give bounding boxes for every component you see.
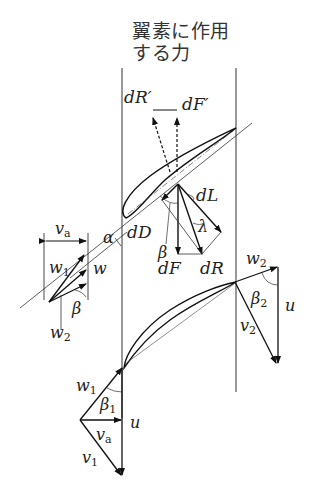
label-dR: dR <box>200 258 224 278</box>
label-beta-left: β <box>71 299 81 318</box>
blade-force-diagram: dR′ dF′ dL dD α β λ dF dR va w1 w β w2 w… <box>0 0 312 502</box>
label-beta2: β2 <box>250 289 267 310</box>
label-w2-left: w2 <box>50 323 71 344</box>
label-v1: v1 <box>82 448 98 469</box>
label-va-top: va <box>55 219 71 240</box>
label-w-left: w <box>93 259 107 278</box>
dD-arrow <box>162 184 178 200</box>
left-velocity-triangle <box>44 233 88 330</box>
label-w2-right: w2 <box>246 249 267 270</box>
label-dF-prime: dF′ <box>182 94 209 114</box>
label-u-right: u <box>285 296 295 315</box>
label-dD: dD <box>127 222 152 242</box>
label-dR-prime: dR′ <box>124 87 152 107</box>
label-u-bottom: u <box>130 413 140 432</box>
chord-line-extended <box>20 123 252 308</box>
label-dL: dL <box>196 185 218 205</box>
label-w1-bottom: w1 <box>76 376 97 397</box>
label-alpha: α <box>103 228 114 247</box>
label-w1-left: w1 <box>49 258 70 279</box>
label-va-bottom: va <box>96 425 112 446</box>
outlet-velocity-triangle <box>235 267 278 363</box>
top-airfoil <box>123 128 236 218</box>
label-beta1: β1 <box>99 395 116 416</box>
label-dF: dF <box>158 258 182 278</box>
bottom-airfoil <box>124 282 236 368</box>
w2-arrow-right <box>235 267 277 282</box>
label-lambda: λ <box>197 217 208 236</box>
